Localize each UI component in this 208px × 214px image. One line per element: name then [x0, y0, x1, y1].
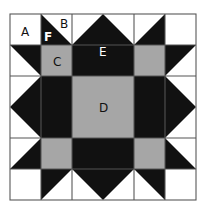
- quilt-block-diagram: A B F C E D: [0, 0, 208, 214]
- label-a: A: [21, 25, 30, 39]
- label-c: C: [53, 55, 61, 69]
- label-d: D: [99, 101, 108, 115]
- label-e: E: [99, 45, 107, 59]
- label-f: F: [44, 30, 52, 44]
- label-b: B: [60, 17, 68, 31]
- gray-square-bottom-left: [41, 138, 72, 169]
- gray-square-bottom-right: [134, 138, 165, 169]
- gray-square-top-right: [134, 45, 165, 76]
